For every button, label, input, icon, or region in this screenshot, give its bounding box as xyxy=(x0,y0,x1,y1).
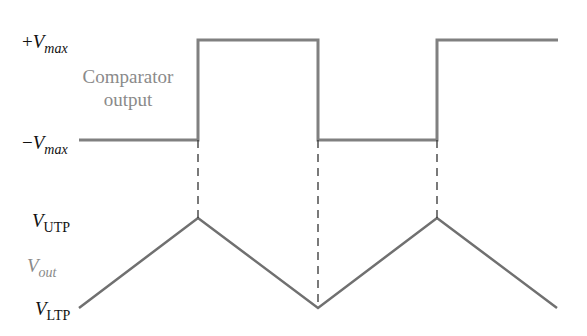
comparator-output-caption: Comparator output xyxy=(72,66,184,112)
var: V xyxy=(27,255,39,276)
sign: − xyxy=(22,132,33,153)
label-v-out: Vout xyxy=(27,256,57,280)
subscript: max xyxy=(44,41,67,56)
subscript: LTP xyxy=(47,308,71,323)
waveform-diagram xyxy=(0,0,587,336)
label-pos-vmax: +Vmax xyxy=(22,32,68,56)
subscript: out xyxy=(39,265,57,280)
sign: + xyxy=(22,31,33,52)
label-v-utp: VUTP xyxy=(32,211,70,235)
label-v-ltp: VLTP xyxy=(35,299,70,323)
subscript: max xyxy=(44,142,67,157)
caption-line-2: output xyxy=(72,89,184,112)
var: V xyxy=(35,298,47,319)
var: V xyxy=(33,31,45,52)
subscript: UTP xyxy=(44,220,70,235)
label-neg-vmax: −Vmax xyxy=(22,133,68,157)
caption-line-1: Comparator xyxy=(72,66,184,89)
var: V xyxy=(33,132,45,153)
var: V xyxy=(32,210,44,231)
